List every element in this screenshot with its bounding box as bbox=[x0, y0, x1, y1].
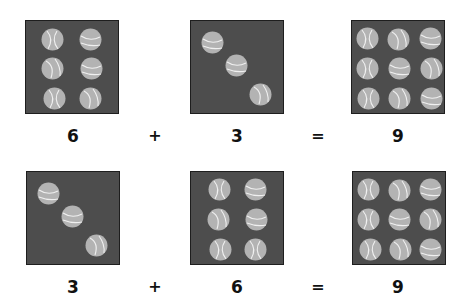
tennis-ball-icon bbox=[61, 205, 84, 228]
box-row2-addend2 bbox=[190, 171, 284, 265]
tennis-ball-icon bbox=[387, 28, 410, 51]
tennis-ball-icon bbox=[419, 238, 442, 261]
tennis-ball-icon bbox=[388, 87, 411, 110]
tennis-ball-icon bbox=[249, 83, 272, 106]
tennis-ball-icon bbox=[388, 208, 411, 231]
row1-plus-sign: + bbox=[140, 126, 170, 146]
tennis-ball-icon bbox=[245, 208, 268, 231]
tennis-ball-icon bbox=[419, 178, 442, 201]
row2-plus-sign: + bbox=[140, 277, 170, 297]
tennis-ball-icon bbox=[201, 31, 224, 54]
box-row1-sum bbox=[351, 20, 445, 114]
tennis-ball-icon bbox=[207, 208, 230, 231]
tennis-ball-icon bbox=[208, 178, 231, 201]
tennis-ball-icon bbox=[244, 178, 267, 201]
tennis-ball-icon bbox=[357, 87, 380, 110]
row1-addend1-label: 6 bbox=[53, 126, 93, 146]
box-row2-addend1 bbox=[26, 171, 120, 265]
row2-addend2-label: 6 bbox=[217, 277, 257, 297]
tennis-ball-icon bbox=[43, 87, 66, 110]
box-row1-addend1 bbox=[25, 20, 119, 114]
tennis-ball-icon bbox=[419, 208, 442, 231]
box-row1-addend2 bbox=[190, 20, 284, 114]
tennis-ball-icon bbox=[79, 87, 102, 110]
tennis-ball-icon bbox=[388, 57, 411, 80]
tennis-ball-icon bbox=[420, 57, 443, 80]
tennis-ball-icon bbox=[41, 28, 64, 51]
tennis-ball-icon bbox=[37, 182, 60, 205]
tennis-ball-icon bbox=[388, 179, 411, 202]
tennis-ball-icon bbox=[80, 57, 103, 80]
tennis-ball-icon bbox=[209, 238, 232, 261]
tennis-ball-icon bbox=[225, 54, 248, 77]
row1-equals-sign: = bbox=[303, 126, 333, 146]
tennis-ball-icon bbox=[79, 28, 102, 51]
tennis-ball-icon bbox=[419, 27, 442, 50]
box-row2-sum bbox=[352, 171, 446, 265]
row1-sum-label: 9 bbox=[378, 126, 418, 146]
tennis-ball-icon bbox=[359, 238, 382, 261]
tennis-ball-icon bbox=[41, 57, 64, 80]
tennis-ball-icon bbox=[244, 238, 267, 261]
tennis-ball-icon bbox=[85, 234, 108, 257]
tennis-ball-icon bbox=[356, 27, 379, 50]
row2-equals-sign: = bbox=[303, 277, 333, 297]
row1-addend2-label: 3 bbox=[217, 126, 257, 146]
tennis-ball-icon bbox=[357, 208, 380, 231]
row2-sum-label: 9 bbox=[378, 277, 418, 297]
row2-addend1-label: 3 bbox=[53, 277, 93, 297]
tennis-ball-icon bbox=[389, 238, 412, 261]
tennis-ball-icon bbox=[356, 57, 379, 80]
tennis-ball-icon bbox=[420, 87, 443, 110]
tennis-ball-icon bbox=[357, 178, 380, 201]
